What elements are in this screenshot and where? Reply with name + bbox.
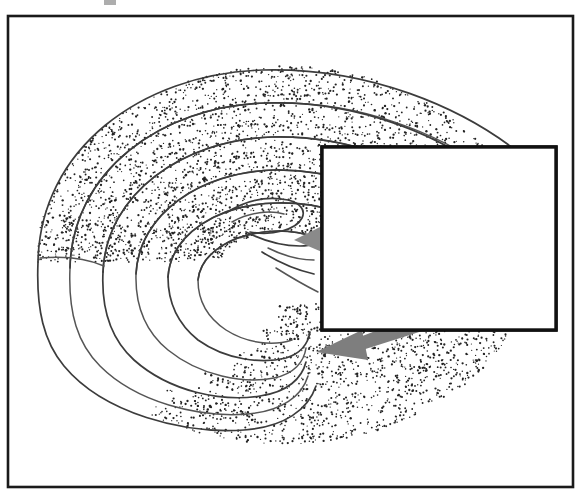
figure-root: Stippled three-dimensional spiral scroll…	[0, 0, 581, 495]
figure-canvas	[0, 0, 581, 495]
top-edge-artifact	[104, 0, 116, 5]
inset-frame-overlay	[322, 147, 556, 330]
